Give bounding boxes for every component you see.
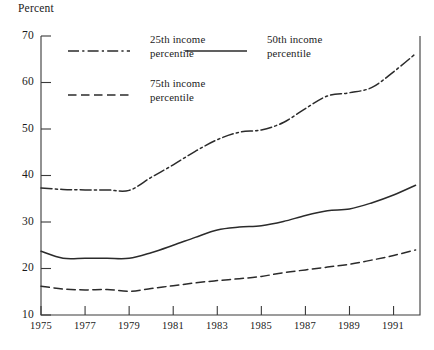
series-line-25th [41,54,416,192]
legend-swatches [68,51,247,95]
axis-frame [41,36,420,315]
chart-figure: Percent 70 60 50 40 30 20 10 1975 1977 1… [0,0,434,350]
series-line-75th [41,250,416,291]
series-line-50th [41,185,416,259]
axes [41,36,420,315]
data-series-group [41,54,416,292]
y-tick-marks [41,36,51,315]
x-tick-marks [41,306,394,315]
chart-plot-area [0,0,434,350]
